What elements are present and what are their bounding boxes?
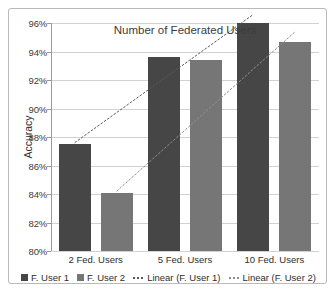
legend-label: Linear (F. User 1) [147,272,220,283]
y-axis-tick-label: 86% [29,160,47,171]
legend-dotted-line-icon [229,274,240,281]
x-axis-tick-label: 10 Fed. Users [244,254,304,265]
y-axis-tick-label: 96% [29,18,47,29]
y-axis-tick-label: 82% [29,217,47,228]
chart-legend: F. User 1F. User 2Linear (F. User 1)Line… [9,272,328,283]
legend-item[interactable]: Linear (F. User 2) [229,272,316,283]
plot-area [51,23,319,251]
legend-item[interactable]: F. User 1 [21,272,69,283]
legend-square-icon [21,274,28,281]
y-axis-tick-labels: 80%82%84%86%88%90%92%94%96% [9,23,47,251]
chart-container: Accuracy 80%82%84%86%88%90%92%94%96% Num… [8,8,327,284]
x-axis-tick-label: 2 Fed. Users [68,254,122,265]
gridline [51,251,319,252]
y-axis-tick-label: 94% [29,46,47,57]
trendline [117,32,296,192]
chart-title: Number of Federated Users [51,24,319,36]
legend-item[interactable]: F. User 2 [77,272,125,283]
y-axis-tick-label: 84% [29,189,47,200]
legend-label: F. User 2 [87,272,125,283]
x-axis-tick-labels: 2 Fed. Users5 Fed. Users10 Fed. Users [51,254,319,268]
y-axis-tick-label: 80% [29,246,47,257]
legend-item[interactable]: Linear (F. User 1) [133,272,220,283]
legend-label: F. User 1 [31,272,69,283]
y-axis-tick [47,251,51,252]
legend-square-icon [77,274,84,281]
legend-dotted-line-icon [133,274,144,281]
trendlines-layer [51,23,319,251]
legend-label: Linear (F. User 2) [243,272,316,283]
y-axis-tick-label: 92% [29,75,47,86]
x-axis-tick-label: 5 Fed. Users [158,254,212,265]
y-axis-tick-label: 90% [29,103,47,114]
y-axis-tick-label: 88% [29,132,47,143]
